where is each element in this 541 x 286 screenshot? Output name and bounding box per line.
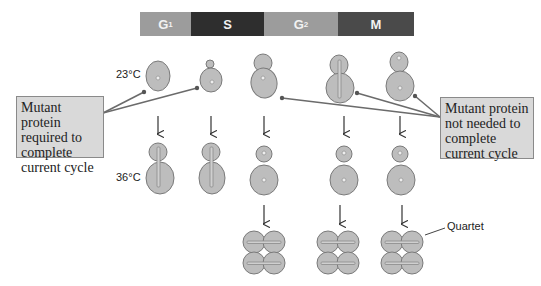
bud-s-23c	[206, 60, 214, 68]
callout-line: current cycle	[21, 160, 99, 175]
quartet-label: Quartet	[447, 220, 484, 232]
bud-m2-23c	[390, 52, 408, 72]
callout-line: Mutant protein	[445, 101, 529, 116]
callout-line: current cycle	[445, 146, 529, 161]
callout-line: Mutant protein	[21, 100, 99, 130]
callout-line: complete	[445, 131, 529, 146]
quartet-col5	[381, 231, 423, 274]
callout-not-needed-box: Mutant protein not needed to complete cu…	[440, 97, 534, 159]
callout-line: required to	[21, 130, 99, 145]
arrows-row2	[264, 205, 402, 224]
temp-label-36c: 36°C	[116, 171, 141, 183]
temp-label-23c: 23°C	[116, 68, 141, 80]
quartet-col3	[243, 231, 285, 274]
left-callout-lines	[103, 88, 197, 113]
callout-line: not needed to	[445, 116, 529, 131]
quartet-col4	[317, 231, 359, 274]
arrows-row1	[158, 116, 400, 134]
callout-required-box: Mutant protein required to complete curr…	[16, 96, 104, 158]
cell-g2-23c	[249, 66, 280, 100]
callout-line: complete	[21, 145, 99, 160]
